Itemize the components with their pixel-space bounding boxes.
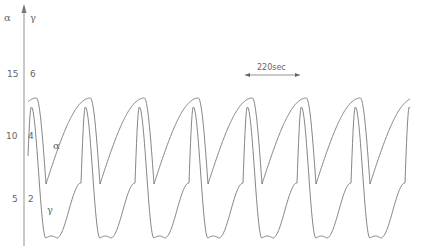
tick-label-6: 6 bbox=[30, 70, 36, 79]
alpha-axis-label: α bbox=[4, 13, 11, 23]
tick-label-4: 4 bbox=[28, 132, 34, 141]
gamma-axis-label: γ bbox=[30, 13, 36, 23]
y-axis-arrow-icon bbox=[22, 4, 27, 13]
tick-label-5: 5 bbox=[12, 195, 18, 204]
tick-label-2: 2 bbox=[28, 195, 34, 204]
gamma-series-line bbox=[28, 107, 410, 238]
scale-arrow-left-icon bbox=[245, 73, 250, 77]
scale-arrow-right-icon bbox=[295, 73, 300, 77]
alpha-curve-label: α bbox=[53, 141, 60, 151]
tick-label-15: 15 bbox=[7, 70, 18, 79]
chart-plot-area bbox=[0, 0, 423, 251]
gamma-curve-label: γ bbox=[47, 205, 53, 215]
scale-bar-label: 220sec bbox=[257, 64, 286, 72]
tick-label-10: 10 bbox=[6, 132, 17, 141]
